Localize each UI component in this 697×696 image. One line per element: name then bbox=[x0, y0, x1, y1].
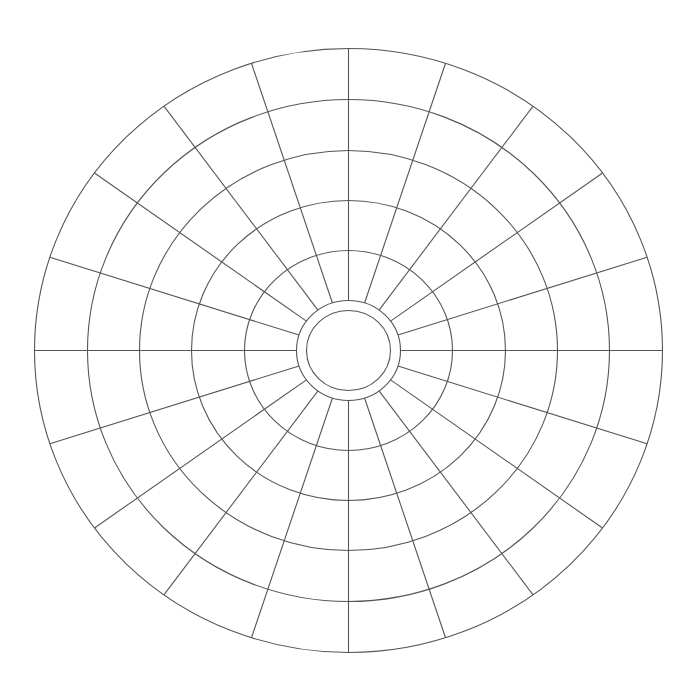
spoke-8 bbox=[379, 391, 533, 595]
ring-1 bbox=[297, 301, 401, 401]
spoke-12 bbox=[164, 391, 318, 595]
spoke-17 bbox=[94, 173, 306, 321]
spoke-7 bbox=[391, 380, 603, 528]
spoke-18 bbox=[164, 106, 318, 310]
radial-spokes bbox=[35, 49, 663, 653]
spoke-2 bbox=[379, 106, 533, 310]
polar-grid-diagram bbox=[0, 0, 697, 696]
spoke-3 bbox=[391, 173, 603, 321]
ring-core bbox=[307, 311, 391, 391]
spoke-13 bbox=[94, 380, 306, 528]
